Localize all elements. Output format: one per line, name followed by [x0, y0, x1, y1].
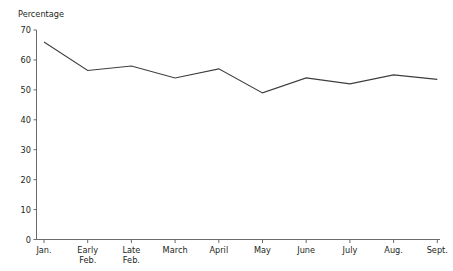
x-axis-tick-label: LateFeb.	[122, 245, 140, 265]
y-axis-tick-label: 60	[21, 55, 31, 65]
x-axis-tick-label: Sept.	[427, 245, 448, 255]
x-axis-tick-label: Aug.	[384, 245, 403, 255]
data-series-line	[44, 42, 437, 93]
chart-canvas: Percentage 010203040506070 Jan.EarlyFeb.…	[0, 0, 453, 271]
x-axis-tick-label: May	[254, 245, 271, 255]
x-axis-tick-label: March	[163, 245, 188, 255]
x-axis-tick-marks	[44, 240, 437, 244]
y-axis-tick-label: 40	[21, 115, 31, 125]
x-axis-tick-label: June	[296, 245, 315, 255]
x-axis-tick-label: EarlyFeb.	[77, 245, 98, 265]
x-axis-tick-label: April	[209, 245, 228, 255]
y-axis-tick-labels: 010203040506070	[21, 25, 31, 245]
x-axis-tick-label: Jan.	[35, 245, 51, 255]
x-axis-tick-label: July	[342, 245, 358, 255]
y-axis-tick-label: 70	[21, 25, 31, 35]
y-axis-tick-label: 10	[21, 205, 31, 215]
y-axis-tick-label: 50	[21, 85, 31, 95]
line-chart: Percentage 010203040506070 Jan.EarlyFeb.…	[0, 0, 453, 271]
y-axis-tick-label: 30	[21, 145, 31, 155]
x-axis-tick-labels: Jan.EarlyFeb.LateFeb.MarchAprilMayJuneJu…	[35, 245, 448, 265]
y-axis-tick-label: 0	[26, 235, 31, 245]
y-axis-title: Percentage	[18, 9, 64, 19]
y-axis-tick-label: 20	[21, 175, 31, 185]
